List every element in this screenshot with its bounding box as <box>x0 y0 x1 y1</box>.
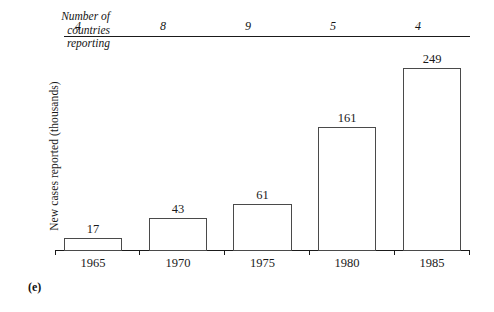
bar-value-1985: 249 <box>403 52 461 67</box>
secondary-axis-label: Number of countries reporting <box>14 10 110 51</box>
bar-1965 <box>64 238 122 251</box>
x-tick-label-1975: 1975 <box>233 256 292 271</box>
x-axis-tick <box>394 250 395 255</box>
bar-1985 <box>403 68 461 251</box>
secondary-axis-label-line-1: Number of <box>14 10 110 24</box>
x-tick-label-1985: 1985 <box>403 256 461 271</box>
secondary-axis-value-1965: 4 <box>63 19 93 34</box>
x-axis-tick <box>55 250 56 255</box>
bar-1970 <box>149 218 207 251</box>
x-axis-tick <box>309 250 310 255</box>
bar-value-1970: 43 <box>149 202 207 217</box>
secondary-axis-label-line-3: reporting <box>14 37 110 51</box>
bar-value-1980: 161 <box>318 111 376 126</box>
bar-1975 <box>233 204 292 251</box>
secondary-axis-label-line-2: countries <box>14 24 110 38</box>
secondary-axis-value-1975: 9 <box>233 19 263 34</box>
bar-value-1975: 61 <box>233 188 292 203</box>
bar-value-1965: 17 <box>64 222 122 237</box>
x-axis-tick <box>224 250 225 255</box>
x-axis-tick <box>469 250 470 255</box>
secondary-axis-value-1985: 4 <box>403 19 433 34</box>
x-axis-tick <box>139 250 140 255</box>
secondary-axis-line <box>64 36 470 37</box>
secondary-axis-value-1980: 5 <box>318 19 348 34</box>
bar-1980 <box>318 127 376 251</box>
x-tick-label-1980: 1980 <box>318 256 376 271</box>
bar-chart-figure: Number of countries reporting 4 8 9 5 4 … <box>0 0 494 312</box>
panel-caption: (e) <box>28 280 41 295</box>
secondary-axis-value-1970: 8 <box>148 19 178 34</box>
x-tick-label-1970: 1970 <box>149 256 207 271</box>
x-tick-label-1965: 1965 <box>64 256 122 271</box>
y-axis-label: New cases reported (thousands) <box>48 56 60 256</box>
